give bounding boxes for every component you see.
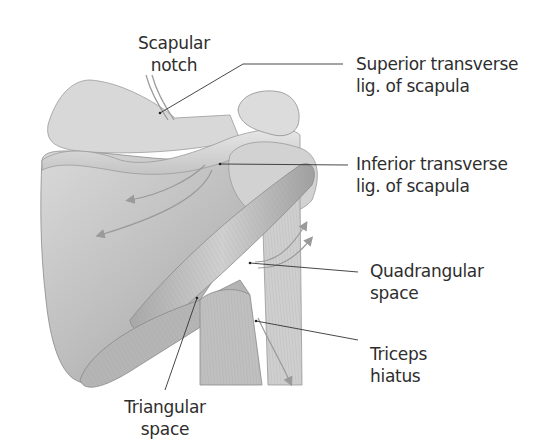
label-line: hiatus bbox=[370, 365, 427, 387]
label-line: Scapular bbox=[134, 32, 214, 54]
label-line: lig. of scapula bbox=[356, 175, 508, 197]
label-line: Triceps bbox=[370, 343, 427, 365]
label-inferior-transverse-lig: Inferior transverse lig. of scapula bbox=[356, 153, 508, 197]
label-triangular-space: Triangular space bbox=[115, 396, 215, 440]
label-line: Triangular bbox=[115, 396, 215, 418]
supraspinous-fossa bbox=[48, 80, 240, 153]
label-line: space bbox=[370, 282, 484, 304]
label-line: Quadrangular bbox=[370, 260, 484, 282]
label-quadrangular-space: Quadrangular space bbox=[370, 260, 484, 304]
label-line: Superior transverse bbox=[356, 53, 518, 75]
label-superior-transverse-lig: Superior transverse lig. of scapula bbox=[356, 53, 518, 97]
label-line: notch bbox=[134, 54, 214, 76]
label-line: space bbox=[115, 418, 215, 440]
label-scapular-notch: Scapular notch bbox=[134, 32, 214, 76]
label-line: Inferior transverse bbox=[356, 153, 508, 175]
label-triceps-hiatus: Triceps hiatus bbox=[370, 343, 427, 387]
acromion bbox=[238, 91, 299, 136]
label-line: lig. of scapula bbox=[356, 75, 518, 97]
